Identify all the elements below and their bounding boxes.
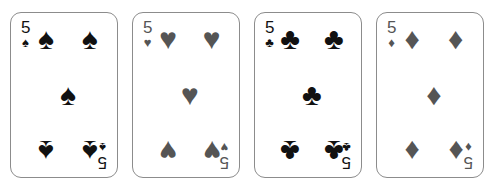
spade-icon: ♠ xyxy=(60,80,76,110)
diamond-icon: ♦ xyxy=(465,141,472,153)
corner-rank-label: 5 xyxy=(342,154,351,171)
heart-icon: ♥ xyxy=(159,136,177,166)
club-icon: ♣ xyxy=(324,24,344,54)
diamond-icon: ♦ xyxy=(448,24,463,54)
diamond-icon: ♦ xyxy=(404,136,419,166)
club-icon: ♣ xyxy=(280,136,300,166)
spade-icon: ♠ xyxy=(99,141,106,153)
pip-field: ♦ ♦ ♦ ♦ ♦ xyxy=(391,25,469,165)
card-table: 5 ♠ ♠ ♠ ♠ ♠ ♠ 5 ♠ 5 ♥ ♥ ♥ ♥ ♥ ♥ 5 ♥ xyxy=(0,0,498,190)
corner-rank-label: 5 xyxy=(220,154,229,171)
diamond-icon: ♦ xyxy=(426,80,441,110)
heart-icon: ♥ xyxy=(221,141,229,153)
heart-icon: ♥ xyxy=(181,80,199,110)
corner-index-bottom-right: 5 ♦ xyxy=(460,141,477,171)
playing-card-five-of-spades[interactable]: 5 ♠ ♠ ♠ ♠ ♠ ♠ 5 ♠ xyxy=(10,12,118,178)
playing-card-five-of-hearts[interactable]: 5 ♥ ♥ ♥ ♥ ♥ ♥ 5 ♥ xyxy=(132,12,240,178)
spade-icon: ♠ xyxy=(38,24,54,54)
corner-index-bottom-right: 5 ♥ xyxy=(216,141,233,171)
spade-icon: ♠ xyxy=(38,136,54,166)
corner-rank-label: 5 xyxy=(464,154,473,171)
pip-field: ♥ ♥ ♥ ♥ ♥ xyxy=(147,25,225,165)
club-icon: ♣ xyxy=(302,80,322,110)
club-icon: ♣ xyxy=(280,24,300,54)
pip-field: ♣ ♣ ♣ ♣ ♣ xyxy=(269,25,347,165)
pip-field: ♠ ♠ ♠ ♠ ♠ xyxy=(25,25,103,165)
corner-index-bottom-right: 5 ♣ xyxy=(338,141,355,171)
spade-icon: ♠ xyxy=(82,24,98,54)
playing-card-five-of-diamonds[interactable]: 5 ♦ ♦ ♦ ♦ ♦ ♦ 5 ♦ xyxy=(376,12,484,178)
playing-card-five-of-clubs[interactable]: 5 ♣ ♣ ♣ ♣ ♣ ♣ 5 ♣ xyxy=(254,12,362,178)
corner-rank-label: 5 xyxy=(98,154,107,171)
diamond-icon: ♦ xyxy=(404,24,419,54)
club-icon: ♣ xyxy=(342,141,351,153)
heart-icon: ♥ xyxy=(203,24,221,54)
corner-index-bottom-right: 5 ♠ xyxy=(94,141,111,171)
heart-icon: ♥ xyxy=(159,24,177,54)
